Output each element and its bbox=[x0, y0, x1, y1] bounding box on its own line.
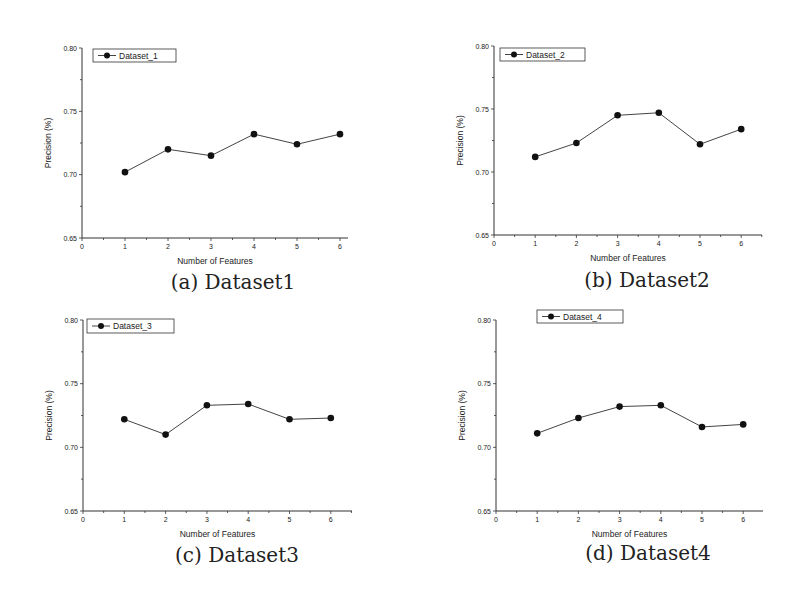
data-point-marker bbox=[532, 154, 539, 161]
x-tick-label: 6 bbox=[739, 240, 743, 247]
y-tick-label: 0.65 bbox=[63, 235, 77, 242]
legend-marker-icon bbox=[548, 314, 554, 320]
data-point-marker bbox=[286, 416, 293, 423]
x-axis-title: Number of Features bbox=[590, 253, 666, 263]
x-tick-label: 4 bbox=[252, 243, 256, 250]
data-point-marker bbox=[616, 403, 623, 410]
y-tick-label: 0.80 bbox=[475, 43, 489, 50]
x-tick-label: 4 bbox=[246, 516, 250, 523]
y-tick-label: 0.70 bbox=[475, 169, 489, 176]
series-line bbox=[124, 404, 330, 435]
x-tick-label: 1 bbox=[123, 243, 127, 250]
x-axis-title: Number of Features bbox=[592, 529, 668, 539]
caption-c: (c) Dataset3 bbox=[175, 543, 299, 567]
y-axis-title: Precision (%) bbox=[455, 115, 465, 166]
y-tick-label: 0.70 bbox=[63, 171, 77, 178]
x-tick-label: 6 bbox=[338, 243, 342, 250]
legend-label: Dataset_1 bbox=[119, 51, 158, 61]
x-tick-label: 6 bbox=[741, 516, 745, 523]
y-axis-title: Precision (%) bbox=[43, 118, 53, 169]
data-point-marker bbox=[162, 431, 169, 438]
x-tick-label: 4 bbox=[657, 240, 661, 247]
x-tick-label: 6 bbox=[329, 516, 333, 523]
x-tick-label: 1 bbox=[535, 516, 539, 523]
data-point-marker bbox=[294, 141, 301, 148]
legend-marker-icon bbox=[98, 323, 104, 329]
y-tick-label: 0.65 bbox=[475, 232, 489, 239]
y-tick-label: 0.75 bbox=[63, 108, 77, 115]
chart-c: 0.650.700.750.800123456Number of Feature… bbox=[44, 317, 352, 540]
x-tick-label: 2 bbox=[574, 240, 578, 247]
x-tick-label: 0 bbox=[80, 243, 84, 250]
legend-label: Dataset_3 bbox=[113, 321, 152, 331]
y-axis-title: Precision (%) bbox=[457, 390, 467, 441]
data-point-marker bbox=[165, 146, 172, 153]
x-tick-label: 0 bbox=[81, 516, 85, 523]
chart-d: 0.650.700.750.800123456Number of Feature… bbox=[457, 310, 763, 539]
y-tick-label: 0.70 bbox=[64, 444, 78, 451]
x-tick-label: 5 bbox=[698, 240, 702, 247]
series-line bbox=[125, 134, 340, 172]
legend: Dataset_3 bbox=[87, 319, 174, 333]
x-tick-label: 1 bbox=[122, 516, 126, 523]
x-axis-title: Number of Features bbox=[177, 256, 253, 266]
caption-b: (b) Dataset2 bbox=[584, 268, 710, 292]
legend: Dataset_4 bbox=[537, 310, 623, 323]
data-point-marker bbox=[245, 401, 252, 408]
x-tick-label: 5 bbox=[700, 516, 704, 523]
data-point-marker bbox=[204, 402, 211, 409]
data-point-marker bbox=[573, 140, 580, 147]
x-tick-label: 3 bbox=[618, 516, 622, 523]
legend-marker-icon bbox=[511, 52, 517, 58]
y-tick-label: 0.65 bbox=[477, 508, 491, 515]
data-point-marker bbox=[699, 424, 706, 431]
y-tick-label: 0.75 bbox=[64, 380, 78, 387]
data-point-marker bbox=[251, 131, 258, 138]
series-line bbox=[537, 405, 743, 433]
x-tick-label: 5 bbox=[295, 243, 299, 250]
data-point-marker bbox=[328, 415, 335, 422]
x-axis-title: Number of Features bbox=[180, 529, 256, 539]
legend: Dataset_2 bbox=[500, 48, 585, 61]
x-tick-label: 0 bbox=[492, 240, 496, 247]
data-point-marker bbox=[740, 421, 747, 428]
y-tick-label: 0.75 bbox=[477, 380, 491, 387]
data-point-marker bbox=[337, 131, 344, 138]
legend-label: Dataset_2 bbox=[526, 50, 565, 60]
x-tick-label: 3 bbox=[205, 516, 209, 523]
legend-label: Dataset_4 bbox=[563, 312, 602, 322]
y-tick-label: 0.80 bbox=[477, 317, 491, 324]
y-tick-label: 0.75 bbox=[475, 106, 489, 113]
data-point-marker bbox=[697, 141, 704, 148]
x-tick-label: 1 bbox=[533, 240, 537, 247]
data-point-marker bbox=[614, 112, 621, 119]
chart-b: 0.650.700.750.800123456Number of Feature… bbox=[455, 43, 762, 264]
x-tick-label: 5 bbox=[288, 516, 292, 523]
legend: Dataset_1 bbox=[93, 49, 176, 62]
data-point-marker bbox=[658, 402, 665, 409]
y-tick-label: 0.65 bbox=[64, 508, 78, 515]
x-tick-label: 2 bbox=[576, 516, 580, 523]
chart-a: 0.650.700.750.800123456Number of Feature… bbox=[43, 45, 348, 267]
y-tick-label: 0.80 bbox=[64, 317, 78, 324]
series-line bbox=[535, 113, 741, 157]
legend-marker-icon bbox=[104, 53, 110, 59]
x-tick-label: 4 bbox=[659, 516, 663, 523]
y-axis-title: Precision (%) bbox=[44, 390, 54, 441]
charts-canvas: 0.650.700.750.800123456Number of Feature… bbox=[0, 0, 801, 606]
x-tick-label: 3 bbox=[209, 243, 213, 250]
x-tick-label: 2 bbox=[164, 516, 168, 523]
data-point-marker bbox=[121, 416, 128, 423]
data-point-marker bbox=[122, 169, 129, 176]
x-tick-label: 0 bbox=[494, 516, 498, 523]
data-point-marker bbox=[656, 109, 663, 116]
data-point-marker bbox=[534, 430, 541, 437]
caption-a: (a) Dataset1 bbox=[171, 270, 296, 294]
y-tick-label: 0.80 bbox=[63, 45, 77, 52]
data-point-marker bbox=[575, 415, 582, 422]
y-tick-label: 0.70 bbox=[477, 444, 491, 451]
data-point-marker bbox=[208, 152, 215, 159]
data-point-marker bbox=[738, 126, 745, 133]
x-tick-label: 2 bbox=[166, 243, 170, 250]
caption-d: (d) Dataset4 bbox=[585, 541, 711, 565]
